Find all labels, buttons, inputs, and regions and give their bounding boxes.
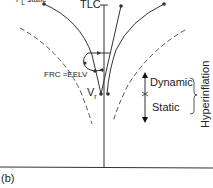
frc-label: FRC =EELV [44, 71, 87, 79]
tidal-loop [84, 53, 111, 71]
tlc-label: TLC [80, 0, 101, 10]
x-axis-line [0, 167, 213, 168]
diagram-canvas [0, 0, 213, 188]
hyperinflation-label: Hyperinflation [199, 61, 211, 128]
dynamic-label: Dynamic [150, 77, 193, 88]
pl-static-label: PL static [16, 0, 46, 7]
panel-label: (b) [1, 173, 14, 184]
static-curve-left [44, 4, 101, 94]
vr-label: Vr [87, 87, 97, 102]
static-label: Static [152, 102, 180, 113]
